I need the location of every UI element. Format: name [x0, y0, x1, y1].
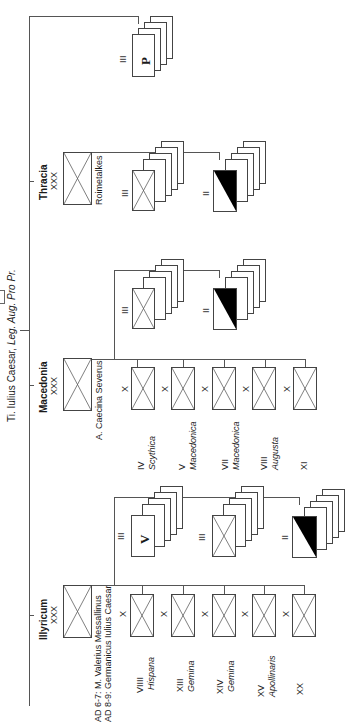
illyricum-tick	[29, 615, 34, 616]
legion-box	[252, 594, 276, 637]
illyricum-unit-v-box: V	[131, 515, 155, 557]
macedonia-unit-ii-size: II	[201, 308, 211, 313]
illyricum-unit-iii-size: III	[197, 533, 207, 541]
thracia-name: Thracia	[38, 164, 49, 200]
thracia-unit-ii-box	[213, 170, 237, 212]
illyricum-unit-ii-box	[292, 516, 317, 558]
illyricum-size: XXX	[50, 606, 60, 624]
thracia-unit-iii-box	[132, 170, 155, 211]
reserve-letter: P	[139, 57, 153, 65]
thracia-commander: Roimetalkes	[95, 155, 105, 205]
commander-bracket	[0, 290, 5, 304]
macedonia-army-box	[63, 358, 92, 411]
macedonia-tick	[29, 385, 34, 386]
illyricum-unit-line	[114, 497, 300, 498]
illyricum-unit-v-size: III	[116, 532, 126, 540]
illyricum-commander-2: AD 8-9: Germanicus Iulius Caesar	[104, 585, 114, 722]
legion-box	[171, 367, 195, 410]
veteran-letter: V	[138, 535, 152, 544]
macedonia-legion-line	[92, 359, 305, 360]
illyricum-unit-drop	[299, 497, 300, 505]
reserve-size-mark: III	[118, 55, 128, 63]
illyricum-unit-ii-size: II	[280, 535, 290, 540]
thracia-size: XXX	[50, 172, 60, 190]
legion-box	[131, 367, 155, 410]
commander-tick	[20, 330, 29, 331]
legion-box	[212, 367, 236, 410]
macedonia-unit-trunk	[114, 270, 115, 360]
macedonia-unit-drop	[219, 270, 220, 278]
illyricum-unit-iii-box	[212, 515, 236, 557]
illyricum-name: Illyricum	[38, 599, 49, 640]
top-connector-line	[29, 16, 139, 17]
legion-box	[130, 594, 154, 637]
thracia-army-box	[63, 152, 92, 205]
thracia-tick	[29, 181, 34, 182]
illyricum-unit-trunk	[114, 497, 115, 586]
reserve-drop-line	[138, 16, 139, 24]
main-trunk-line	[29, 16, 30, 706]
illyricum-army-box	[63, 585, 92, 638]
macedonia-name: Macedonia	[38, 361, 49, 413]
macedonia-size: XXX	[50, 377, 60, 395]
commander-label: Ti. Iulius Caesar, Leg. Aug. Pro Pr.	[6, 269, 17, 422]
macedonia-unit-iii-box	[132, 288, 155, 329]
legion-box	[171, 594, 195, 637]
legion-box	[292, 594, 316, 637]
legion-box	[212, 594, 236, 637]
thracia-branch-drop	[219, 152, 220, 160]
illyricum-legion-line	[92, 585, 305, 586]
macedonia-commander: A. Caecina Severus	[95, 360, 105, 440]
legion-box	[252, 367, 276, 410]
reserve-unit-box: P	[132, 34, 155, 77]
macedonia-unit-iii-size: III	[120, 306, 130, 314]
thracia-unit-ii-size: II	[201, 191, 211, 196]
legion-box	[293, 367, 317, 410]
macedonia-unit-ii-box	[213, 288, 237, 330]
thracia-unit-iii-size: III	[120, 189, 130, 197]
